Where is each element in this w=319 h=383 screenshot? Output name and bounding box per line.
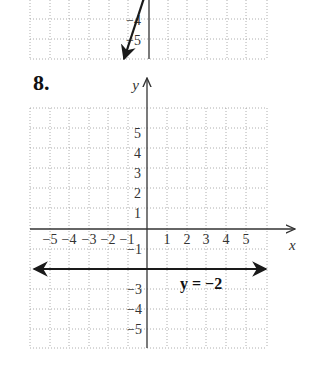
x-tick-3: 3 <box>203 232 210 247</box>
y-tick-neg3: −3 <box>127 282 142 297</box>
y-tick-neg4: −4 <box>127 302 142 317</box>
previous-graph-fragment: −4 −5 <box>30 0 267 59</box>
x-tick-neg2: −2 <box>101 232 116 247</box>
equation-label: y = −2 <box>180 275 222 293</box>
y-tick-3: 3 <box>134 166 141 181</box>
y-tick-neg5: −5 <box>127 322 142 337</box>
y-tick-4: 4 <box>134 146 141 161</box>
x-tick-1: 1 <box>164 232 171 247</box>
y-tick-5: 5 <box>134 126 141 141</box>
x-axis-title: x <box>288 237 296 253</box>
y-tick-2: 2 <box>134 186 141 201</box>
x-tick-4: 4 <box>223 232 230 247</box>
y-tick-1: 1 <box>134 206 141 221</box>
previous-graph-line <box>124 0 144 59</box>
x-tick-5: 5 <box>243 232 250 247</box>
coordinate-grid <box>30 108 267 348</box>
x-tick-neg1: −1 <box>120 232 135 247</box>
x-tick-2: 2 <box>184 232 191 247</box>
graph-canvas: −4 −5 8. y x 5 <box>0 0 319 383</box>
problem-number: 8. <box>33 70 50 95</box>
x-tick-neg4: −4 <box>62 232 77 247</box>
x-tick-labels: −5 −4 −3 −2 −1 1 2 3 4 5 <box>43 232 250 247</box>
x-tick-neg5: −5 <box>43 232 58 247</box>
y-axis-title: y <box>130 77 139 93</box>
x-tick-neg3: −3 <box>82 232 97 247</box>
